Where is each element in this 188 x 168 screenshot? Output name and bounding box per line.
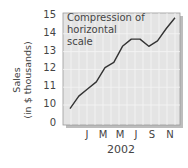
- x-tick-nov: N: [166, 129, 173, 140]
- x-tick-mar: M: [99, 129, 108, 140]
- annotation-line-1: Compression of: [67, 12, 145, 24]
- x-axis-label: 2002: [107, 143, 135, 156]
- x-tick-jan: J: [86, 129, 89, 140]
- annotation: Compression of horizontal scale: [67, 12, 145, 48]
- annotation-line-3: scale: [67, 36, 145, 48]
- x-tick-may: M: [116, 129, 125, 140]
- x-tick-jul: J: [135, 129, 138, 140]
- x-tick-sep: S: [149, 129, 155, 140]
- annotation-line-2: horizontal: [67, 24, 145, 36]
